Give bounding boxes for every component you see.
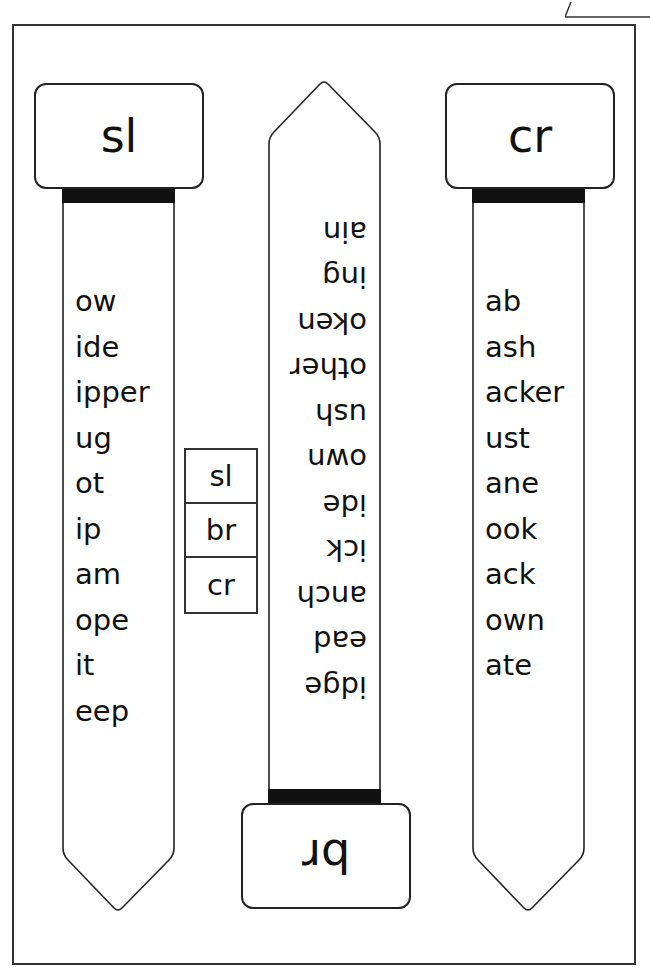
word-ending: eep (75, 689, 150, 735)
word-ending: ead (282, 618, 367, 664)
word-list-cr: ab ash acker ust ane ook ack own ate (485, 279, 564, 689)
key-cell-br: br (186, 504, 256, 558)
blend-header-br: br (241, 803, 411, 909)
blend-header-sl: sl (34, 83, 204, 189)
word-ending: ate (485, 643, 564, 689)
blend-label: cr (508, 113, 552, 159)
key-cell-cr: cr (186, 558, 256, 612)
word-ending: other (282, 345, 367, 391)
strip-sl-band (62, 188, 175, 203)
word-ending: ush (282, 390, 367, 436)
strip-cr-band (472, 188, 585, 203)
word-ending: ot (75, 461, 150, 507)
word-ending: ain (282, 208, 367, 254)
word-ending: ug (75, 416, 150, 462)
blend-header-cr: cr (445, 83, 615, 189)
corner-tab-decoration (565, 0, 650, 18)
word-ending: ust (485, 416, 564, 462)
word-ending: ip (75, 507, 150, 553)
word-ending: it (75, 643, 150, 689)
word-ending: ick (282, 527, 367, 573)
word-ending: ide (75, 325, 150, 371)
word-ending: am (75, 552, 150, 598)
word-ending: ack (485, 552, 564, 598)
word-ending: acker (485, 370, 564, 416)
word-ending: idge (282, 663, 367, 709)
word-ending: own (485, 598, 564, 644)
word-ending: ow (75, 279, 150, 325)
blend-label: br (302, 833, 350, 879)
blend-key-table: sl br cr (184, 448, 258, 614)
word-ending: anch (282, 572, 367, 618)
key-cell-sl: sl (186, 450, 256, 504)
word-ending: ane (485, 461, 564, 507)
word-ending: ab (485, 279, 564, 325)
word-ending: ing (282, 254, 367, 300)
word-ending: ope (75, 598, 150, 644)
word-ending: ipper (75, 370, 150, 416)
word-ending: ide (282, 481, 367, 527)
word-list-sl: ow ide ipper ug ot ip am ope it eep (75, 279, 150, 734)
strip-br-band (268, 789, 381, 804)
word-list-br: idge ead anch ick ide own ush other oken… (282, 208, 367, 709)
word-ending: oken (282, 299, 367, 345)
word-ending: own (282, 436, 367, 482)
word-ending: ook (485, 507, 564, 553)
blend-label: sl (101, 113, 138, 159)
word-ending: ash (485, 325, 564, 371)
